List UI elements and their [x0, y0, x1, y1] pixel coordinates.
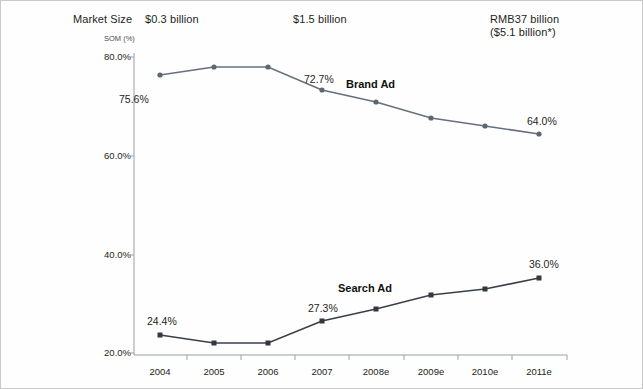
search-point-label-2004: 24.4% [147, 315, 177, 327]
chart-container: Market Size $0.3 billion $1.5 billion RM… [0, 0, 643, 389]
search-ad-series-label: Search Ad [338, 282, 392, 294]
brand-ad-markers [157, 64, 541, 136]
chart-plot-area [1, 1, 643, 389]
x-tick-marks [187, 355, 567, 360]
search-point-label-2011e: 36.0% [529, 258, 559, 270]
search-point-label-2007: 27.3% [308, 302, 338, 314]
brand-point-label-2007: 72.7% [304, 73, 334, 85]
brand-point-label-2011e: 64.0% [527, 115, 557, 127]
brand-point-label-2004: 75.6% [119, 93, 149, 105]
brand-ad-series-label: Brand Ad [346, 78, 395, 90]
